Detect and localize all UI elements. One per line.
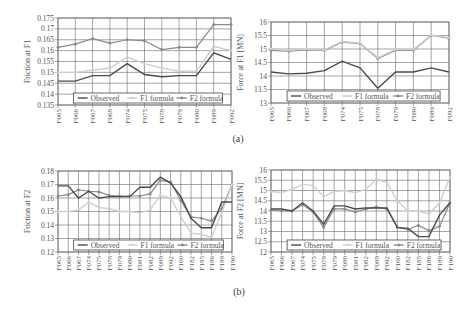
svg-text:Observed: Observed <box>304 241 333 250</box>
svg-text:12.5: 12.5 <box>254 237 267 246</box>
svg-text:F079: F079 <box>331 256 339 271</box>
caption-b: (b) <box>219 286 259 297</box>
svg-text:F066: F066 <box>278 256 286 271</box>
svg-text:F080: F080 <box>341 256 349 271</box>
svg-text:13.5: 13.5 <box>254 217 267 226</box>
chart-force-f2: 1212.51313.51414.51515.516F065F066F067F0… <box>0 0 475 309</box>
svg-text:F075: F075 <box>310 256 318 271</box>
svg-text:F078: F078 <box>320 256 328 271</box>
svg-text:F074: F074 <box>299 256 307 271</box>
svg-text:F189: F189 <box>436 256 444 271</box>
chart-svg: 1212.51313.51414.51515.516F065F066F067F0… <box>0 0 475 309</box>
svg-text:F186: F186 <box>425 256 433 271</box>
svg-text:12: 12 <box>260 248 268 257</box>
svg-text:14: 14 <box>260 207 268 216</box>
svg-text:F092: F092 <box>383 256 391 271</box>
svg-text:15: 15 <box>260 186 268 195</box>
svg-text:F1 formula: F1 formula <box>355 241 389 250</box>
svg-text:Force at F2 [MN]: Force at F2 [MN] <box>236 182 245 239</box>
svg-text:14.5: 14.5 <box>254 196 267 205</box>
svg-text:F081: F081 <box>352 256 360 271</box>
svg-text:16: 16 <box>260 166 268 175</box>
svg-text:13: 13 <box>260 227 268 236</box>
svg-text:F190: F190 <box>447 256 455 271</box>
svg-text:F2 formula: F2 formula <box>407 241 441 250</box>
svg-text:F160: F160 <box>394 256 402 271</box>
svg-text:15.5: 15.5 <box>254 176 267 185</box>
svg-text:F065: F065 <box>268 256 276 271</box>
svg-text:F185: F185 <box>415 256 423 271</box>
svg-text:F089: F089 <box>373 256 381 271</box>
svg-text:F067: F067 <box>289 256 297 271</box>
svg-text:F182: F182 <box>404 256 412 271</box>
svg-text:F082: F082 <box>362 256 370 271</box>
